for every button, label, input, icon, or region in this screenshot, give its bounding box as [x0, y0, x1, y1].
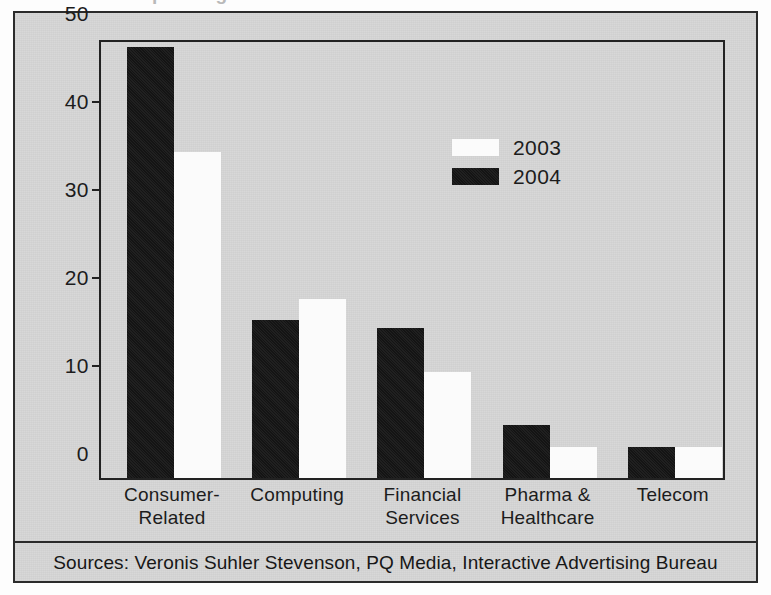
bar-2004-0	[127, 47, 174, 478]
legend-label-2003: 2003	[513, 136, 561, 160]
cropped-title: Ad Spending	[0, 0, 771, 11]
y-axis-tick-20: 20	[65, 266, 101, 290]
legend-swatch-2004-icon	[452, 168, 499, 185]
bar-2004-1	[252, 320, 299, 478]
y-axis-tick-0: 0	[77, 442, 101, 466]
legend-item-2004: 2004	[452, 162, 622, 191]
bar-2004-4	[628, 447, 675, 478]
y-axis-tick-30: 30	[65, 178, 101, 202]
chart-legend: 2003 2004	[452, 133, 622, 191]
axes-inner: 01020304050	[101, 42, 723, 478]
chart-plot-area: 01020304050 2003 2004 Consumer-RelatedCo…	[15, 13, 756, 541]
bar-2004-3	[503, 425, 550, 478]
legend-swatch-2003-icon	[452, 139, 499, 156]
bar-2003-0	[174, 152, 221, 478]
x-axis-category-labels: Consumer-RelatedComputingFinancialServic…	[99, 483, 725, 541]
legend-item-2003: 2003	[452, 133, 622, 162]
bar-2003-3	[550, 447, 597, 478]
x-axis-label-4: Telecom	[593, 483, 753, 506]
x-axis-label-line: Telecom	[593, 483, 753, 506]
axes-box: 01020304050	[99, 40, 725, 480]
bar-2003-4	[675, 447, 722, 478]
y-axis-tick-50: 50	[65, 2, 101, 26]
bar-2003-1	[299, 299, 346, 478]
bar-2004-2	[377, 328, 424, 478]
y-axis-tick-40: 40	[65, 90, 101, 114]
y-axis-tick-10: 10	[65, 354, 101, 378]
chart-figure: Ad Spending 01020304050 2003 2004	[0, 0, 771, 595]
x-axis-label-line: Healthcare	[468, 506, 628, 529]
x-axis-label-line: Related	[92, 506, 252, 529]
sources-note: Sources: Veronis Suhler Stevenson, PQ Me…	[15, 543, 756, 583]
cropped-title-text: Ad Spending	[108, 0, 227, 5]
legend-label-2004: 2004	[513, 165, 561, 189]
chart-outer-frame: 01020304050 2003 2004 Consumer-RelatedCo…	[13, 11, 758, 583]
bar-2003-2	[424, 372, 471, 478]
bar-series-group	[101, 42, 723, 478]
